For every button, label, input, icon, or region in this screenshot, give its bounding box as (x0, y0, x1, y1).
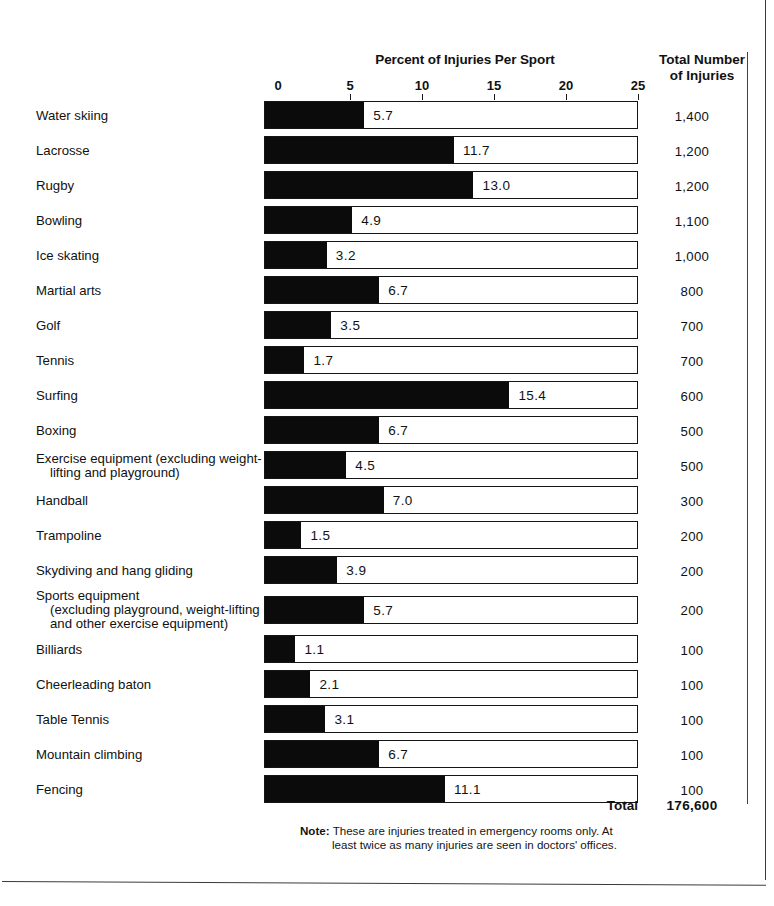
row-label: Rugby (36, 178, 268, 193)
row-total-injuries: 800 (646, 283, 738, 298)
axis-tick-label-10: 10 (415, 78, 429, 93)
row-total-injuries: 1,100 (646, 213, 738, 228)
row-total-injuries: 300 (646, 493, 738, 508)
bar-fill (265, 102, 364, 128)
chart-row: Lacrosse11.71,200 (0, 133, 774, 168)
bar-fill (265, 277, 379, 303)
bar-value-label: 1.1 (304, 642, 324, 657)
chart-rows: Water skiing5.71,400Lacrosse11.71,200Rug… (0, 98, 774, 807)
row-total-injuries: 100 (646, 747, 738, 762)
bar-value-label: 11.7 (463, 143, 490, 158)
row-label: Sports equipment(excluding playground, w… (36, 589, 268, 631)
bar-value-label: 4.5 (355, 458, 375, 473)
bar-track: 2.1 (264, 670, 638, 698)
chart-row: Trampoline1.5200 (0, 518, 774, 553)
row-label: Mountain climbing (36, 747, 268, 762)
row-label-line: Golf (36, 318, 268, 333)
row-label-line: Surfing (36, 388, 268, 403)
row-label-line: Boxing (36, 423, 268, 438)
row-label: Table Tennis (36, 712, 268, 727)
row-total-injuries: 200 (646, 528, 738, 543)
bar-track: 4.5 (264, 451, 638, 479)
bar-fill (265, 522, 301, 548)
bar-value-label: 6.7 (388, 283, 408, 298)
chart-row: Rugby13.01,200 (0, 168, 774, 203)
bar-value-label: 3.5 (340, 318, 360, 333)
row-label-line: Bowling (36, 213, 268, 228)
row-label-line: Cheerleading baton (36, 677, 268, 692)
note-label: Note: (300, 824, 330, 837)
bar-track: 6.7 (264, 740, 638, 768)
bar-track: 11.7 (264, 136, 638, 164)
row-label: Golf (36, 318, 268, 333)
bar-value-label: 15.4 (518, 388, 546, 403)
bar-track: 6.7 (264, 276, 638, 304)
row-label-line: Rugby (36, 178, 268, 193)
chart-row: Skydiving and hang gliding3.9200 (0, 553, 774, 588)
bar-value-label: 5.7 (373, 603, 393, 618)
bar-track: 13.0 (264, 171, 638, 199)
bar-fill (265, 487, 384, 513)
chart-row: Table Tennis3.1100 (0, 702, 774, 737)
bar-value-label: 6.7 (388, 423, 408, 438)
bar-track: 7.0 (264, 486, 638, 514)
chart-row: Exercise equipment (excluding weight-lif… (0, 448, 774, 483)
row-label: Cheerleading baton (36, 677, 268, 692)
bar-fill (265, 706, 325, 732)
row-total-injuries: 700 (646, 318, 738, 333)
bar-value-label: 4.9 (361, 213, 381, 228)
row-label-line: Billiards (36, 642, 268, 657)
row-label: Martial arts (36, 283, 268, 298)
bar-fill (265, 636, 295, 662)
row-label-line: Ice skating (36, 248, 268, 263)
bar-fill (265, 597, 364, 623)
row-total-injuries: 1,400 (646, 108, 738, 123)
axis-tick-label-25: 25 (631, 78, 645, 93)
row-label-line: Table Tennis (36, 712, 268, 727)
row-total-injuries: 100 (646, 712, 738, 727)
row-label-line: Fencing (36, 782, 268, 797)
note-line1: These are injuries treated in emergency … (333, 824, 613, 837)
row-label: Exercise equipment (excluding weight-lif… (36, 452, 268, 480)
row-total-injuries: 1,200 (646, 178, 738, 193)
grand-total-row: Total 176,600 (0, 798, 774, 818)
chart-row: Billiards1.1100 (0, 632, 774, 667)
chart-row: Martial arts6.7800 (0, 273, 774, 308)
bar-value-label: 13.0 (482, 178, 510, 193)
row-total-injuries: 100 (646, 782, 738, 797)
bar-value-label: 7.0 (393, 493, 413, 508)
bar-value-label: 2.1 (319, 677, 339, 692)
bar-fill (265, 347, 304, 373)
x-axis: 0510152025 (0, 78, 774, 98)
row-label: Lacrosse (36, 143, 268, 158)
chart-row: Golf3.5700 (0, 308, 774, 343)
bar-track: 3.1 (264, 705, 638, 733)
row-label: Billiards (36, 642, 268, 657)
row-total-injuries: 200 (646, 603, 738, 618)
chart-title: Percent of Injuries Per Sport (300, 52, 630, 67)
chart-row: Tennis1.7700 (0, 343, 774, 378)
bar-value-label: 5.7 (373, 108, 393, 123)
bar-fill (265, 417, 379, 443)
row-label-line: Mountain climbing (36, 747, 268, 762)
bar-track: 3.2 (264, 241, 638, 269)
row-label-line: Exercise equipment (excluding weight- (36, 452, 268, 466)
bar-track: 3.9 (264, 556, 638, 584)
row-total-injuries: 700 (646, 353, 738, 368)
bar-value-label: 3.9 (346, 563, 366, 578)
row-total-injuries: 500 (646, 423, 738, 438)
row-label: Surfing (36, 388, 268, 403)
row-label-line: Skydiving and hang gliding (36, 563, 268, 578)
row-total-injuries: 600 (646, 388, 738, 403)
bar-track: 15.4 (264, 381, 638, 409)
axis-tick-label-20: 20 (559, 78, 573, 93)
grand-total-label: Total (560, 798, 638, 813)
totals-header-line1: Total Number (646, 52, 758, 68)
row-label-line: Lacrosse (36, 143, 268, 158)
bar-fill (265, 172, 473, 198)
bar-fill (265, 242, 327, 268)
row-label: Handball (36, 493, 268, 508)
chart-row: Bowling4.91,100 (0, 203, 774, 238)
row-label: Skydiving and hang gliding (36, 563, 268, 578)
bar-track: 1.5 (264, 521, 638, 549)
